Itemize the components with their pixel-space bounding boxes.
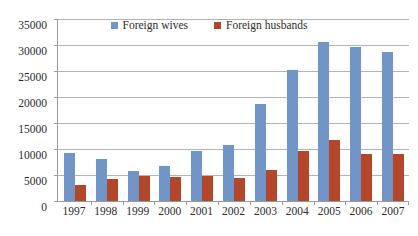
x-axis-tick-label: 1998	[90, 206, 122, 218]
bar-foreign-husbands	[75, 185, 86, 201]
bar-group	[250, 20, 282, 201]
bar-foreign-husbands	[329, 140, 340, 201]
bar-group	[345, 20, 377, 201]
y-axis-tick	[54, 71, 58, 72]
bar-group	[218, 20, 250, 201]
bar-foreign-wives	[191, 151, 202, 201]
bar-foreign-wives	[350, 47, 361, 201]
x-axis-tick-label: 2003	[249, 206, 281, 218]
bar-group	[186, 20, 218, 201]
bar-foreign-husbands	[298, 151, 309, 201]
bar-group	[123, 20, 155, 201]
y-axis-tick	[54, 45, 58, 46]
bar-groups	[59, 20, 409, 201]
bar-foreign-wives	[223, 145, 234, 201]
bar-foreign-wives	[318, 42, 329, 201]
y-axis-tick	[54, 175, 58, 176]
plot-area	[57, 20, 409, 202]
bar-group	[282, 20, 314, 201]
bar-group	[314, 20, 346, 201]
x-axis-tick	[314, 201, 315, 205]
x-axis-tick	[123, 201, 124, 205]
x-axis-tick	[154, 201, 155, 205]
x-axis-tick	[91, 201, 92, 205]
x-axis-tick-label: 2005	[313, 206, 345, 218]
bar-foreign-wives	[255, 104, 266, 201]
x-axis-tick-label: 1997	[58, 206, 90, 218]
x-axis-tick-label: 1999	[122, 206, 154, 218]
bar-foreign-wives	[96, 159, 107, 201]
y-axis-tick	[54, 97, 58, 98]
bar-foreign-husbands	[202, 176, 213, 201]
bar-foreign-wives	[64, 153, 75, 201]
x-axis-tick-label: 2006	[345, 206, 377, 218]
x-axis-tick-label: 2000	[154, 206, 186, 218]
x-axis-line	[58, 201, 409, 202]
x-axis-tick-label: 2004	[281, 206, 313, 218]
x-axis-tick-label: 2001	[186, 206, 218, 218]
x-axis-tick	[345, 201, 346, 205]
x-axis-labels: 1997199819992000200120022003200420052006…	[58, 206, 409, 218]
bar-foreign-wives	[287, 70, 298, 201]
y-axis-tick	[54, 19, 58, 20]
x-axis-tick-label: 2002	[218, 206, 250, 218]
bar-foreign-husbands	[361, 154, 372, 201]
x-axis-tick	[408, 201, 409, 205]
x-axis-tick	[377, 201, 378, 205]
bar-foreign-wives	[382, 52, 393, 201]
bar-foreign-wives	[159, 166, 170, 201]
bar-chart: Foreign wives Foreign husbands 050001000…	[0, 0, 418, 236]
y-axis-tick	[54, 149, 58, 150]
bar-foreign-husbands	[393, 154, 404, 201]
y-axis-tick	[54, 123, 58, 124]
x-axis-tick	[218, 201, 219, 205]
bar-foreign-husbands	[266, 170, 277, 201]
bar-group	[377, 20, 409, 201]
bar-foreign-husbands	[170, 177, 181, 201]
x-axis-tick	[282, 201, 283, 205]
x-axis-tick-label: 2007	[377, 206, 409, 218]
x-axis-tick	[250, 201, 251, 205]
y-axis-labels: 05000100001500020000250003000035000	[0, 20, 53, 202]
bar-group	[91, 20, 123, 201]
x-axis-tick	[186, 201, 187, 205]
bar-group	[59, 20, 91, 201]
bar-foreign-husbands	[234, 178, 245, 201]
bar-group	[154, 20, 186, 201]
bar-foreign-wives	[128, 171, 139, 201]
bar-foreign-husbands	[107, 179, 118, 201]
bar-foreign-husbands	[139, 176, 150, 201]
